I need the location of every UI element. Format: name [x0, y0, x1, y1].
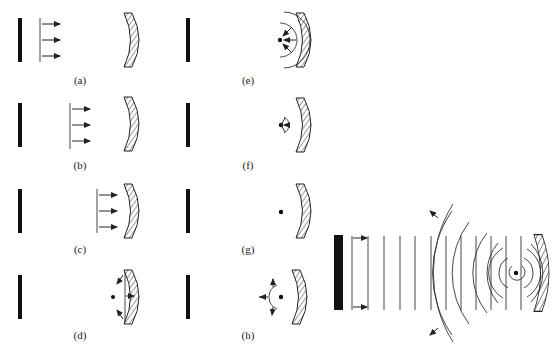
- focal-point: [279, 210, 283, 214]
- concave-mirror: [124, 270, 139, 324]
- focal-point: [111, 295, 115, 299]
- arrow-icon: [283, 28, 291, 36]
- planar-reflector: [18, 189, 22, 233]
- planar-reflector: [334, 235, 343, 310]
- arrow-curve-icon: [117, 275, 123, 284]
- planar-reflector: [186, 18, 190, 62]
- panel-d: (d): [18, 270, 139, 342]
- concave-mirror: [124, 13, 139, 67]
- wave-reflection-diagram: (a) (b) (c) (d): [0, 0, 559, 356]
- planar-reflector: [186, 103, 190, 147]
- planar-reflector: [186, 189, 190, 233]
- panel-f: (f): [186, 98, 311, 172]
- ray-line: [281, 118, 285, 125]
- arrow-down-left-icon: [430, 328, 438, 335]
- planar-reflector: [186, 275, 190, 319]
- panel-label: (a): [74, 74, 87, 87]
- panel-label: (h): [242, 329, 255, 342]
- panel-label: (f): [243, 159, 254, 172]
- arrow-up-left-icon: [430, 211, 438, 218]
- panel-label: (d): [74, 329, 87, 342]
- ray-line: [281, 125, 285, 132]
- focal-point: [279, 295, 283, 299]
- planar-reflector: [18, 275, 22, 319]
- arrow-curve-icon: [117, 310, 123, 319]
- panel-b: (b): [18, 97, 139, 172]
- composite-interference: [334, 204, 549, 342]
- panel-c: (c): [18, 184, 139, 256]
- circular-wavefronts: [433, 204, 543, 342]
- arrow-down-icon: [272, 307, 273, 315]
- concave-mirror: [124, 97, 139, 151]
- concave-mirror: [292, 270, 307, 324]
- panel-a: (a): [18, 13, 139, 87]
- panel-h: (h): [186, 270, 307, 342]
- concave-mirror: [296, 98, 311, 152]
- focal-point: [514, 271, 518, 275]
- wavefront: [269, 285, 277, 309]
- planar-reflector: [18, 18, 22, 62]
- panel-g: (g): [186, 184, 311, 256]
- panel-label: (b): [74, 159, 87, 172]
- concave-mirror: [296, 13, 311, 67]
- panel-e: (e): [186, 12, 311, 87]
- concave-mirror: [534, 235, 549, 312]
- panel-label: (g): [242, 243, 255, 256]
- plane-wavefronts: [352, 236, 521, 310]
- planar-reflector: [18, 103, 22, 147]
- panel-label: (c): [74, 243, 87, 256]
- concave-mirror: [124, 184, 139, 238]
- concave-mirror: [296, 184, 311, 238]
- focal-point: [278, 38, 282, 42]
- panel-label: (e): [242, 74, 255, 87]
- arrow-icon: [283, 44, 291, 52]
